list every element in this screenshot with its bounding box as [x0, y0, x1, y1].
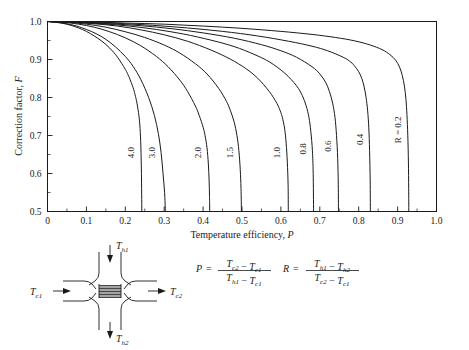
curve-label-0.2: R = 0.2 [393, 116, 403, 143]
curve-R-1.0 [48, 22, 289, 212]
formula-R: R= Th1−Th2 Tc2−Tc1 [282, 258, 359, 288]
y-tick-label: 0.7 [30, 131, 42, 141]
curve-label-0.6: 0.6 [323, 140, 333, 152]
label-hot-inlet-temperature: Th1 [116, 240, 129, 254]
y-axis-title: Correction factor, F [13, 75, 24, 155]
formula-P-lhs: P= [195, 263, 212, 274]
label-cold-outlet-temperature: Tc2 [170, 286, 183, 300]
x-tick-label: 0.9 [392, 216, 404, 226]
x-tick-label: 0.1 [80, 216, 92, 226]
y-axis-ticks [48, 22, 53, 212]
curve-label-4.0: 4.0 [126, 146, 136, 158]
lmtd-correction-factor-figure: 00.10.20.30.40.50.60.70.80.91.0 0.50.60.… [0, 0, 469, 350]
cold-in-arrow-head [63, 288, 71, 294]
hot-out-arrow-head [107, 331, 113, 339]
formula-P-denominator: Th1−Tc1 [226, 272, 261, 288]
x-tick-label: 0.3 [158, 216, 170, 226]
x-tick-label: 0.6 [275, 216, 287, 226]
plot-border [48, 22, 437, 212]
label-hot-outlet-temperature: Th2 [116, 333, 129, 347]
curve-label-1.5: 1.5 [225, 146, 235, 158]
shell-bottom-right [121, 297, 131, 330]
cold-out-arrow-head [158, 288, 166, 294]
shell-left-upper [63, 281, 96, 289]
curve-value-labels: 4.03.02.01.51.00.80.60.4R = 0.2 [126, 116, 403, 158]
y-tick-label: 0.9 [30, 55, 42, 65]
curve-R-4.0 [48, 22, 142, 212]
curve-label-2.0: 2.0 [193, 146, 203, 158]
curve-label-0.8: 0.8 [298, 143, 308, 155]
formula-P: P= Tc2−Tc1 Th1−Tc1 [195, 258, 271, 288]
shell-top-right [121, 252, 131, 285]
shell-bottom-left [89, 297, 99, 330]
x-tick-label: 0.2 [119, 216, 131, 226]
x-tick-label: 0 [45, 216, 50, 226]
exchanger-shell [63, 252, 157, 330]
x-axis-tick-labels: 00.10.20.30.40.50.60.70.80.91.0 [45, 216, 443, 226]
hot-in-arrow-head [107, 255, 113, 263]
correction-factor-curves [48, 22, 409, 212]
curve-R-0.6 [48, 22, 339, 212]
y-axis-tick-labels: 0.50.60.70.80.91.0 [30, 17, 42, 217]
x-tick-label: 0.8 [353, 216, 365, 226]
curve-R-1.5 [48, 22, 242, 212]
shell-left-lower [63, 293, 96, 301]
heat-exchanger-diagram: Th1 Th2 Tc1 Tc2 [30, 240, 183, 347]
curve-label-3.0: 3.0 [147, 146, 157, 158]
figure-canvas: 00.10.20.30.40.50.60.70.80.91.0 0.50.60.… [0, 0, 469, 350]
shell-right-upper [124, 281, 157, 289]
flow-arrows [53, 245, 166, 339]
curve-R-0.8 [48, 22, 314, 212]
y-tick-label: 0.6 [30, 169, 42, 179]
formula-R-denominator: Tc2−Tc1 [315, 272, 350, 288]
x-axis-ticks [48, 207, 437, 212]
x-tick-label: 0.5 [236, 216, 248, 226]
x-axis-title: Temperature efficiency, P [190, 229, 293, 240]
formula-block: P= Tc2−Tc1 Th1−Tc1 R= Th1−Th2 Tc2−Tc1 [195, 258, 359, 288]
curve-R-0.2 [48, 22, 409, 212]
x-tick-label: 1.0 [431, 216, 443, 226]
y-tick-label: 0.5 [30, 207, 42, 217]
y-tick-label: 1.0 [30, 17, 42, 27]
formula-R-lhs: R= [282, 263, 299, 274]
y-tick-label: 0.8 [30, 93, 42, 103]
curve-R-2.0 [48, 22, 210, 212]
plot-frame [48, 22, 437, 212]
exchanger-plates [99, 286, 121, 298]
curve-label-0.4: 0.4 [355, 133, 365, 145]
curve-label-1.0: 1.0 [272, 146, 282, 158]
shell-top-left [89, 252, 99, 285]
shell-right-lower [124, 293, 157, 301]
label-cold-inlet-temperature: Tc1 [30, 286, 42, 300]
x-tick-label: 0.4 [197, 216, 209, 226]
x-tick-label: 0.7 [314, 216, 326, 226]
